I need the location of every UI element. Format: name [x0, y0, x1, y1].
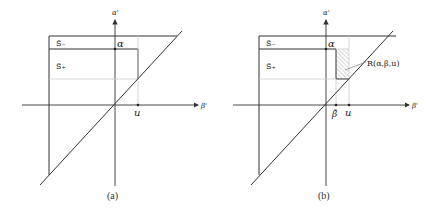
- u-label: u: [134, 107, 140, 118]
- alpha-point: [114, 48, 117, 51]
- beta-label: β̃: [331, 109, 337, 119]
- diagonal-line: [251, 31, 393, 185]
- x-axis-label: β': [411, 102, 418, 110]
- s-plus-label: S̃₊: [56, 62, 66, 71]
- u-point: [348, 104, 351, 107]
- alpha-label: α: [328, 38, 335, 49]
- panel-a: α' β' S̃₋ S̃₊ α u (a): [22, 9, 207, 202]
- u-label: u: [345, 107, 351, 118]
- panel-caption: (b): [318, 190, 330, 202]
- region-label: R(α,β,u): [367, 59, 400, 68]
- hatched-region: [336, 49, 349, 79]
- s-plus-label: S̃₊: [266, 62, 276, 71]
- alpha-point: [325, 48, 328, 51]
- diagram-canvas: α' β' S̃₋ S̃₊ α u (a) α' β' S̃₋ S̃₊ α β̃…: [0, 0, 444, 213]
- panel-caption: (a): [107, 190, 118, 202]
- diagonal-line: [40, 31, 182, 185]
- y-axis-label: α': [112, 9, 119, 17]
- u-point: [137, 104, 140, 107]
- alpha-label: α: [117, 38, 124, 49]
- x-axis-label: β': [200, 102, 207, 110]
- beta-point: [335, 104, 338, 107]
- y-axis-label: α': [323, 9, 330, 17]
- panel-b: α' β' S̃₋ S̃₊ α β̃ u R(α,β,u) (b): [233, 9, 418, 202]
- s-minus-label: S̃₋: [266, 39, 276, 48]
- s-minus-label: S̃₋: [56, 39, 66, 48]
